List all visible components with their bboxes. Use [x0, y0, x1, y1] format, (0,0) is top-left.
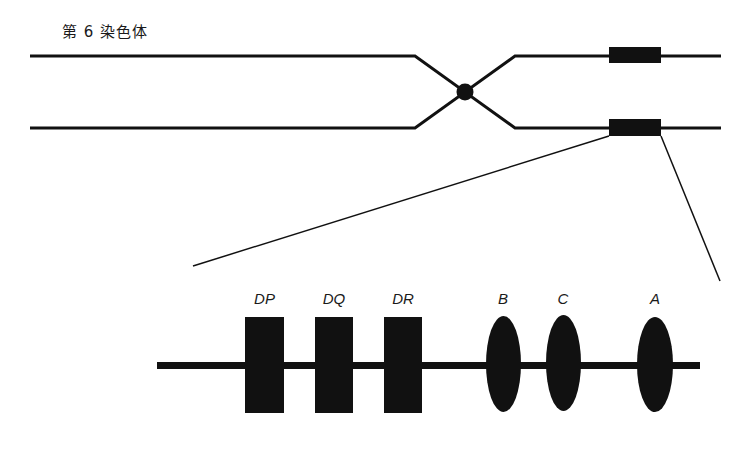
gene-region-band-bottom — [609, 119, 661, 136]
label-b: B — [498, 290, 508, 307]
gene-c — [546, 315, 581, 411]
gene-dq — [315, 317, 353, 413]
gene-dr — [384, 317, 422, 413]
label-a: A — [649, 290, 660, 307]
label-dr: DR — [392, 290, 414, 307]
gene-a — [637, 317, 673, 412]
label-dp: DP — [254, 290, 275, 307]
gene-b — [486, 316, 521, 412]
label-dq: DQ — [323, 290, 346, 307]
zoom-line-right — [661, 136, 720, 281]
gene-map-bar — [157, 362, 700, 369]
centromere — [457, 84, 474, 101]
gene-region-band-top — [609, 47, 661, 63]
zoom-line-left — [193, 136, 609, 266]
chromosome-diagram: DP DQ DR B C A — [0, 0, 748, 449]
label-c: C — [558, 290, 569, 307]
gene-dp — [245, 317, 284, 413]
